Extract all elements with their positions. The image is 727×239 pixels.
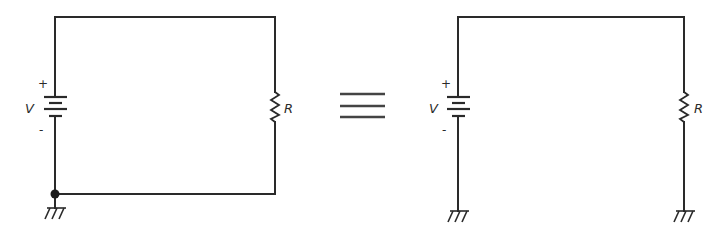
resistor-label: R: [694, 101, 703, 116]
battery-symbol: [44, 97, 67, 116]
ground-icon: [674, 211, 695, 222]
resistor-symbol: [271, 92, 279, 122]
resistor-symbol: [680, 92, 688, 122]
left-circuit: + V - R: [25, 17, 293, 219]
right-circuit: + V - R: [429, 17, 703, 222]
battery-negative-sign: -: [39, 123, 43, 137]
battery-positive-sign: +: [38, 77, 48, 91]
battery-label: V: [25, 101, 35, 116]
battery-positive-sign: +: [441, 77, 451, 91]
battery-label: V: [429, 101, 439, 116]
circuit-equivalence-diagram: + V - R: [0, 0, 727, 239]
junction-dot: [51, 190, 60, 199]
battery-symbol: [447, 97, 470, 116]
battery-negative-sign: -: [442, 123, 446, 137]
ground-icon: [448, 211, 469, 222]
right-circuit-wires: [458, 17, 684, 211]
ground-icon: [45, 208, 66, 219]
equivalence-symbol: [340, 94, 385, 117]
resistor-label: R: [284, 101, 293, 116]
left-circuit-wires: [55, 17, 275, 208]
